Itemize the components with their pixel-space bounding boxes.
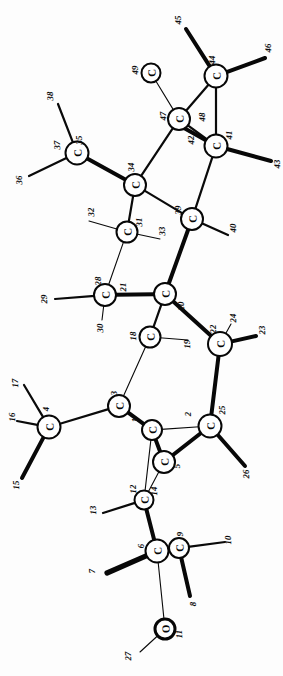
- atom-number-label-39: 39: [173, 205, 183, 216]
- atom-number-label-12: 12: [128, 484, 138, 494]
- bond-a47-a49: [156, 80, 174, 110]
- atom-element-symbol: C: [173, 544, 185, 552]
- atom-number-label-42: 42: [186, 135, 196, 146]
- bond-a35-n36: [29, 158, 67, 176]
- bond-a22-n23: [231, 336, 256, 342]
- bond-a44-n46: [226, 58, 265, 72]
- atom-number-label-15: 15: [11, 480, 21, 490]
- atom-number-label-7: 7: [87, 568, 97, 573]
- atom-a9: C: [169, 538, 189, 558]
- atom-element-symbol: C: [146, 426, 158, 434]
- bond-a9-n8: [181, 557, 190, 596]
- bond-a47-a44: [186, 84, 210, 111]
- atom-element-symbol: C: [173, 115, 185, 123]
- atom-number-label-26: 26: [241, 469, 251, 480]
- bond-a18-a20: [153, 304, 161, 328]
- atom-number-label-23: 23: [257, 325, 267, 336]
- atom-number-label-43: 43: [272, 159, 282, 170]
- atom-element-symbol: C: [214, 340, 226, 348]
- atom-a39: C: [181, 208, 203, 230]
- atom-number-label-46: 46: [263, 43, 273, 54]
- atom-a18: C: [140, 327, 161, 348]
- atom-a3: C: [108, 395, 130, 417]
- atom-number-label-49: 49: [130, 65, 140, 76]
- atom-number-label-19: 19: [182, 339, 192, 349]
- bond-a6-a12: [146, 508, 154, 540]
- atom-a22: C: [208, 332, 232, 356]
- atom-a6: C: [146, 540, 169, 563]
- atom-number-label-44: 44: [207, 55, 217, 66]
- bond-a11-n27: [140, 635, 158, 652]
- atom-layer: CCCCCCOCCCCCCCCCCCCCC: [38, 64, 233, 640]
- atom-number-label-47: 47: [158, 111, 168, 122]
- atom-element-symbol: C: [121, 228, 133, 236]
- atom-element-symbol: C: [210, 72, 222, 80]
- atom-number-label-45: 45: [173, 15, 183, 26]
- atom-a4: C: [38, 416, 61, 439]
- bond-a39-n40: [201, 223, 228, 235]
- atom-a49: C: [142, 64, 161, 83]
- bond-a5-a25: [172, 433, 202, 456]
- bond-a6-n7: [107, 555, 147, 573]
- atom-number-label-18: 18: [128, 331, 138, 341]
- atom-number-label-29: 29: [39, 294, 49, 305]
- atom-number-label-5: 5: [172, 463, 182, 468]
- bond-a20-a39: [168, 229, 188, 285]
- atom-number-label-4: 4: [41, 406, 51, 412]
- atom-number-label-28: 28: [93, 276, 103, 287]
- atom-element-symbol: C: [186, 215, 198, 223]
- atom-number-label-2: 2: [183, 411, 193, 417]
- atom-a28: C: [94, 284, 116, 306]
- atom-a11: O: [155, 619, 175, 639]
- atom-number-label-36: 36: [14, 175, 24, 186]
- bond-a20-a28: [115, 294, 155, 295]
- bond-a28-n30: [102, 305, 104, 320]
- atom-element-symbol: C: [158, 458, 170, 466]
- atom-element-symbol: C: [204, 422, 216, 430]
- atom-number-label-24: 24: [228, 313, 238, 324]
- atom-number-label-11: 11: [174, 630, 184, 639]
- bond-a41-n43: [226, 149, 271, 161]
- bond-a11-a6: [158, 562, 164, 620]
- atom-number-label-17: 17: [10, 378, 20, 388]
- molecular-structure-diagram: CCCCCCOCCCCCCCCCCCCCC 123456789101112131…: [0, 0, 283, 676]
- bond-a1-a25: [161, 427, 199, 430]
- atom-number-label-21: 21: [118, 282, 128, 292]
- bond-a9-n10: [188, 542, 225, 547]
- atom-element-symbol: C: [138, 496, 150, 504]
- atom-number-label-27: 27: [123, 651, 133, 662]
- atom-number-label-33: 33: [157, 226, 167, 237]
- bond-a4-n17: [24, 385, 44, 418]
- bond-a34-a47: [141, 127, 174, 176]
- atom-number-label-22: 22: [208, 324, 218, 335]
- bond-a35-n38: [58, 104, 73, 143]
- atom-number-label-16: 16: [7, 412, 17, 422]
- bond-a4-n15: [22, 436, 44, 478]
- bond-a12-a1: [145, 439, 151, 491]
- atom-number-label-10: 10: [223, 535, 233, 545]
- atom-a47: C: [168, 108, 190, 130]
- atom-number-label-1: 1: [130, 418, 140, 423]
- atom-number-label-40: 40: [228, 223, 238, 234]
- atom-number-label-8: 8: [188, 601, 198, 606]
- atom-number-label-35: 35: [74, 135, 84, 146]
- atom-number-label-48: 48: [197, 112, 207, 123]
- atom-a34: C: [124, 174, 146, 196]
- atom-element-symbol: O: [159, 624, 171, 633]
- atom-number-label-32: 32: [86, 207, 96, 218]
- atom-number-label-37: 37: [52, 140, 62, 151]
- atom-a25: C: [199, 415, 222, 438]
- bond-a39-a41: [195, 156, 213, 209]
- atom-element-symbol: C: [151, 547, 163, 555]
- atom-element-symbol: C: [144, 333, 156, 341]
- atom-a1: C: [142, 420, 162, 440]
- atom-element-symbol: C: [71, 149, 83, 157]
- atom-a20: C: [154, 283, 176, 305]
- atom-number-label-38: 38: [45, 91, 55, 102]
- atom-number-label-3: 3: [109, 390, 119, 396]
- atom-element-symbol: C: [210, 142, 222, 150]
- atom-element-symbol: C: [43, 423, 55, 431]
- atom-a44: C: [205, 65, 228, 88]
- atom-number-label-6: 6: [136, 543, 146, 548]
- atom-number-label-30: 30: [95, 323, 105, 334]
